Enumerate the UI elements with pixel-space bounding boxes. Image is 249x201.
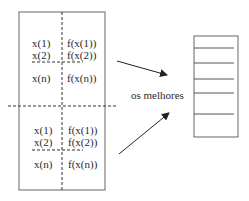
top-fx1: f(x(1)) xyxy=(67,37,96,49)
top-fx2: f(x(2)) xyxy=(67,49,96,61)
bottom-xn: x(n) xyxy=(34,158,52,170)
top-xn: x(n) xyxy=(32,72,50,84)
arrow-top xyxy=(117,61,167,75)
bottom-fxn: f(x(n)) xyxy=(68,158,97,170)
arrow-bottom xyxy=(119,113,169,154)
bottom-fx2: f(x(2)) xyxy=(68,136,97,148)
top-x2: x(2) xyxy=(32,49,50,61)
bottom-x1: x(1) xyxy=(34,124,52,136)
diagram-canvas xyxy=(0,0,249,201)
bottom-fx1: f(x(1)) xyxy=(68,124,97,136)
best-label: os melhores xyxy=(131,89,184,101)
bottom-x2: x(2) xyxy=(34,136,52,148)
best-stack xyxy=(194,36,238,137)
top-fxn: f(x(n)) xyxy=(67,72,96,84)
top-x1: x(1) xyxy=(32,37,50,49)
